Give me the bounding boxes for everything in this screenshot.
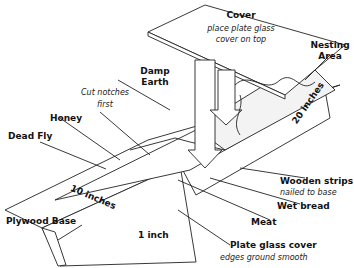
cover-note-2: cover on top	[186, 35, 296, 45]
dim-1-label: 1 inch	[138, 230, 169, 240]
meat-label: Meat	[251, 217, 276, 227]
cover-note-1: place plate glass	[186, 24, 296, 34]
plate-glass-note: edges ground smooth	[220, 253, 308, 263]
dead-fly-label: Dead Fly	[8, 131, 52, 141]
damp-earth-label-1: Damp	[135, 66, 175, 76]
wet-bread-label: Wet bread	[277, 201, 330, 211]
plywood-base-label: Plywood Base	[6, 216, 76, 226]
damp-earth-label-2: Earth	[135, 77, 175, 87]
nesting-label-1: Nesting	[305, 40, 354, 50]
plate-glass-label: Plate glass cover	[230, 240, 317, 250]
ant-farm-diagram: Cover place plate glass cover on top Nes…	[0, 0, 354, 268]
honey-label: Honey	[50, 113, 82, 123]
notches-note-1: Cut notches	[75, 88, 135, 98]
notches-note-2: first	[75, 100, 135, 110]
ant-farm-illustration	[0, 0, 354, 268]
nesting-label-2: Area	[305, 51, 354, 61]
wooden-strips-note: nailed to base	[280, 188, 337, 198]
cover-label: Cover	[196, 10, 286, 20]
wooden-strips-label: Wooden strips	[280, 176, 353, 186]
